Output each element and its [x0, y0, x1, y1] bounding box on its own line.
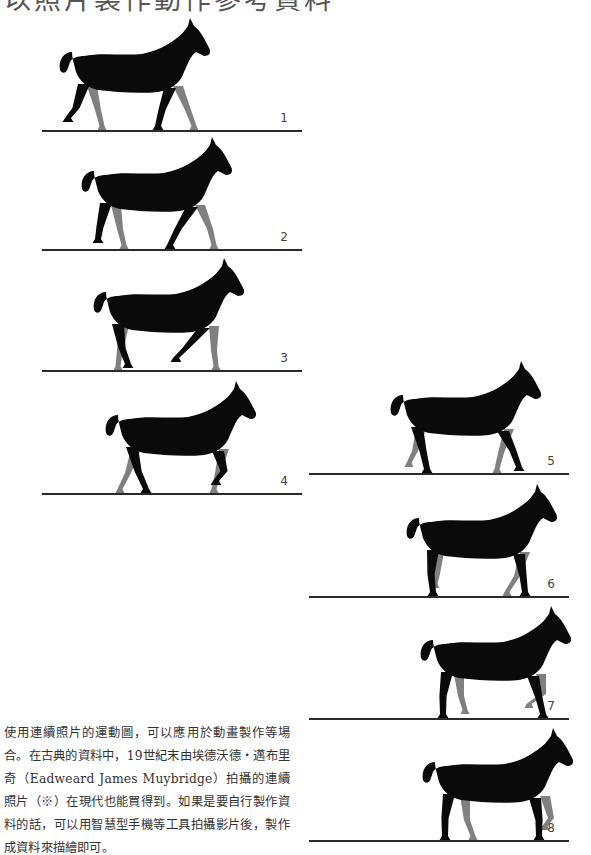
frame-number: 2: [280, 230, 288, 244]
far-hind-leg: [87, 86, 107, 130]
ground-line: [309, 473, 569, 475]
horse-neck: [517, 738, 555, 788]
horse-silhouette: [309, 355, 569, 475]
far-fore-leg: [209, 326, 221, 370]
horse-neck: [200, 391, 238, 441]
far-hind-leg: [111, 205, 129, 249]
frame-number: 6: [547, 577, 555, 591]
horse: [82, 137, 232, 249]
near-hind-leg: [112, 324, 133, 368]
frame-number: 8: [547, 821, 555, 835]
frame-number: 3: [280, 351, 288, 365]
horse: [60, 18, 210, 130]
horse-silhouette: [42, 12, 302, 132]
horse-neck: [485, 371, 523, 421]
horse-neck: [154, 28, 192, 78]
ground-line: [42, 370, 302, 372]
near-fore-leg: [529, 798, 544, 840]
frame-number: 4: [280, 474, 288, 488]
ground-line: [309, 718, 569, 720]
horse-frame-6: 6: [309, 478, 569, 598]
ground-line: [42, 249, 302, 251]
ground-line: [309, 840, 569, 842]
ground-line: [309, 596, 569, 598]
ground-line: [42, 493, 302, 495]
near-hind-leg: [93, 203, 112, 243]
horse-silhouette: [309, 722, 569, 842]
frame-number: 5: [547, 454, 555, 468]
far-fore-leg: [195, 205, 219, 249]
horse-neck: [176, 147, 214, 197]
horse-silhouette: [309, 478, 569, 598]
near-fore-leg: [171, 328, 210, 362]
horse: [94, 258, 244, 370]
horse: [106, 381, 256, 493]
far-hind-leg: [454, 674, 470, 714]
horse-silhouette: [42, 375, 302, 495]
horse-frame-8: 8: [309, 722, 569, 842]
horse-frame-4: 4: [42, 375, 302, 495]
near-hind-leg: [440, 794, 455, 840]
frame-number: 1: [280, 111, 288, 125]
near-fore-leg: [153, 88, 176, 130]
near-hind-leg: [63, 84, 90, 122]
caption-paragraph: 使用連續照片的運動圖，可以應用於動畫製作等場合。在古典的資料中，19世紀末由埃德…: [4, 722, 290, 855]
horse-frame-2: 2: [42, 131, 302, 251]
near-hind-leg: [438, 672, 453, 718]
frame-number: 7: [547, 699, 555, 713]
far-hind-leg: [460, 796, 478, 840]
horse-frame-1: 1: [42, 12, 302, 132]
far-fore-leg: [173, 86, 199, 130]
near-fore-leg: [165, 207, 198, 249]
horse-silhouette: [309, 600, 569, 720]
horse: [391, 361, 541, 473]
horse-silhouette: [42, 131, 302, 251]
horse-frame-7: 7: [309, 600, 569, 720]
horse-frame-3: 3: [42, 252, 302, 372]
horse-neck: [188, 268, 226, 318]
horse-neck: [515, 616, 553, 666]
horse-frame-5: 5: [309, 355, 569, 475]
horse: [407, 484, 557, 596]
horse-silhouette: [42, 252, 302, 372]
horse-neck: [501, 494, 539, 544]
